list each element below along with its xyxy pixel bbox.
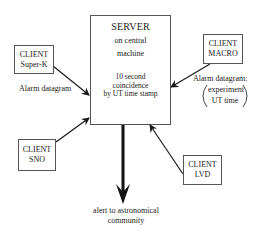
client-sno-name: SNO	[29, 155, 45, 165]
client-lvd-name: LVD	[195, 170, 211, 180]
client-lvd-box: CLIENT LVD	[183, 155, 222, 185]
left-paren	[203, 85, 207, 107]
arrow-server-to-alert	[116, 124, 130, 204]
client-superk-name: Super-K	[21, 60, 48, 70]
server-location-line2: machine	[117, 49, 144, 59]
client-sno-label: CLIENT	[23, 145, 51, 155]
client-superk-box: CLIENT Super-K	[14, 45, 54, 74]
server-title: SERVER	[111, 21, 150, 33]
client-macro-name: MACRO	[208, 49, 237, 59]
alarm-datagram-right-label: Alarm datagram:	[193, 74, 247, 84]
alert-output-line2: community	[80, 216, 172, 226]
alarm-datagram-ut-time: UT time	[208, 96, 242, 106]
coincidence-line3: by UT time stamp	[103, 90, 157, 99]
client-lvd-label: CLIENT	[188, 160, 216, 170]
client-sno-box: CLIENT SNO	[18, 139, 56, 171]
alarm-datagram-experiment: experiment	[208, 85, 242, 95]
server-location-line1: on central	[115, 36, 147, 46]
client-macro-box: CLIENT MACRO	[203, 34, 243, 64]
client-macro-label: CLIENT	[209, 39, 237, 49]
arrow-sno-to-server	[56, 118, 89, 142]
client-superk-label: CLIENT	[20, 50, 48, 60]
alert-output-line1: alert to astronomical	[80, 206, 172, 216]
arrow-lvd-to-server	[150, 125, 183, 174]
alarm-datagram-left-label: Alarm datagram	[19, 84, 71, 94]
server-box: SERVER on central machine 10 second coin…	[90, 15, 171, 125]
alert-output-label: alert to astronomical community	[80, 206, 172, 226]
